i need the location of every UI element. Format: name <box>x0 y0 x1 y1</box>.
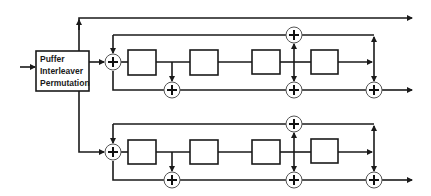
adder-icon <box>286 27 302 43</box>
encoder-2 <box>105 116 412 188</box>
interleaver-label-line-1: Puffer <box>40 54 65 64</box>
delay-element <box>311 139 338 163</box>
adder-icon <box>164 172 180 188</box>
turbo-encoder-diagram: Puffer Interleaver Permutation <box>0 0 431 196</box>
delay-element <box>311 50 338 74</box>
interleaver-label-line-2: Interleaver <box>40 66 84 76</box>
adder-icon <box>286 172 302 188</box>
delay-element <box>128 140 156 164</box>
adder-icon <box>286 82 302 98</box>
interleaver-block: Puffer Interleaver Permutation <box>36 51 90 91</box>
adder-icon <box>366 82 382 98</box>
delay-element <box>190 50 218 75</box>
delay-element <box>252 50 280 74</box>
adder-icon <box>164 82 180 98</box>
adder-icon <box>105 54 121 70</box>
delay-element <box>128 50 156 75</box>
encoder-1 <box>89 27 412 98</box>
adder-icon <box>286 116 302 132</box>
delay-element <box>252 140 280 164</box>
interleaved-path <box>79 91 104 152</box>
adder-icon <box>105 144 121 160</box>
adder-icon <box>366 172 382 188</box>
delay-element <box>190 140 218 164</box>
interleaver-label-line-3: Permutation <box>40 78 90 88</box>
